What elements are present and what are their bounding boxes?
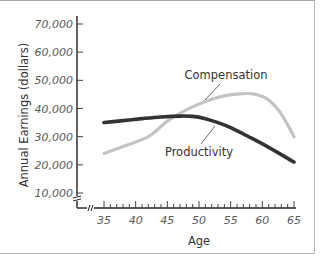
y-tick-label: 10,000 — [35, 187, 74, 200]
axes — [73, 16, 296, 211]
x-axis-break — [88, 205, 93, 211]
x-tick-label: 60 — [255, 214, 269, 227]
y-tick-label: 20,000 — [35, 159, 74, 172]
y-axis-title: Annual Earnings (dollars) — [17, 43, 31, 188]
annotation-productivity: Productivity — [165, 145, 233, 159]
y-tick-label: 40,000 — [35, 103, 74, 116]
y-axis-break — [73, 196, 81, 201]
x-tick-label: 40 — [129, 214, 143, 227]
y-ticks: 10,00020,00030,00040,00050,00060,00070,0… — [35, 18, 84, 200]
x-tick-label: 45 — [160, 214, 174, 227]
x-tick-label: 65 — [287, 214, 301, 227]
x-axis-title: Age — [188, 234, 210, 248]
annotation-compensation: Compensation — [185, 68, 268, 82]
earnings-chart: 10,00020,00030,00040,00050,00060,00070,0… — [0, 0, 324, 266]
y-tick-label: 30,000 — [35, 131, 74, 144]
x-tick-label: 35 — [97, 214, 111, 227]
y-tick-label: 70,000 — [35, 18, 74, 31]
x-ticks: 35404550556065 — [97, 201, 301, 227]
leader-line-productivity — [201, 126, 215, 144]
y-tick-label: 60,000 — [35, 46, 74, 59]
x-tick-label: 55 — [224, 214, 238, 227]
x-tick-label: 50 — [192, 214, 206, 227]
y-tick-label: 50,000 — [35, 74, 74, 87]
